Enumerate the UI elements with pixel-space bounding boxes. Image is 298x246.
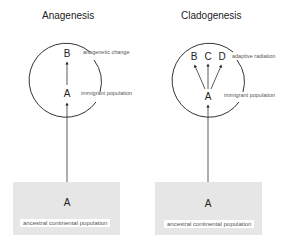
species-a: A (64, 88, 71, 99)
ancestral-population-label: ancestral continental population (20, 219, 110, 227)
ancestral-species-a: A (64, 197, 71, 208)
species-c: C (204, 51, 211, 62)
species-d: D (218, 51, 225, 62)
species-b: B (191, 51, 198, 62)
immigrant-population-label: immigrant population (81, 90, 132, 96)
adaptive-radiation-label: adaptive radiation (232, 53, 275, 59)
ancestral-population-box (13, 182, 120, 235)
panel-title-cladogenesis: Cladogenesis (181, 10, 242, 21)
ancestral-species-a: A (205, 198, 212, 209)
ancestral-population-label: ancestral continental population (164, 220, 254, 228)
immigrant-population-label: immigrant population (224, 92, 275, 98)
species-b: B (64, 48, 71, 59)
species-a: A (205, 91, 212, 102)
panel-title-anagenesis: Anagenesis (42, 10, 94, 21)
anagenetic-change-label: anagenetic change (83, 49, 129, 55)
